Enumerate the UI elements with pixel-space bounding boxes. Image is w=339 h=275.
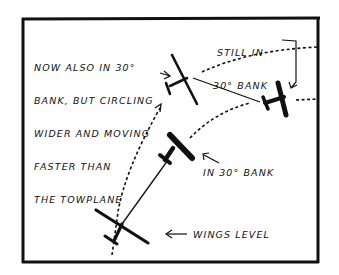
label-glider-wide: NOW ALSO IN 30° BANK, BUT CIRCLING WIDER… <box>34 40 154 216</box>
arrowhead-icon <box>155 104 161 112</box>
label-line: FASTER THAN <box>34 161 154 172</box>
label-towplane-bank: STILL IN 30° BANK <box>213 25 268 102</box>
glider-circling-wider <box>166 55 197 104</box>
label-line: BANK, BUT CIRCLING <box>34 95 154 106</box>
label-line: NOW ALSO IN 30° <box>34 62 154 73</box>
label-line: STILL IN <box>213 47 268 58</box>
label-line: THE TOWPLANE <box>34 194 154 205</box>
label-line: WIDER AND MOVING <box>34 128 154 139</box>
label-glider-level: WINGS LEVEL <box>193 229 270 240</box>
glider-in-bank <box>160 135 192 163</box>
label-glider-bank: IN 30° BANK <box>203 167 274 178</box>
label-line: 30° BANK <box>213 80 268 91</box>
